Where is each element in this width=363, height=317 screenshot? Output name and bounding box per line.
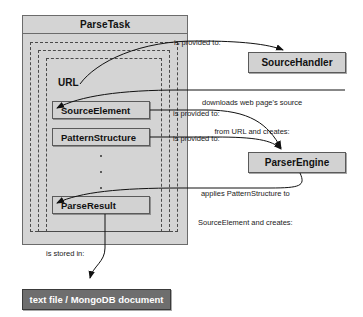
vertical-ellipsis-icon bbox=[99, 155, 103, 189]
edge-label-url-to-sourcehandler: is provided to: bbox=[174, 38, 221, 48]
node-source-handler-label: SourceHandler bbox=[261, 57, 332, 68]
parsetask-title: ParseTask bbox=[80, 19, 130, 30]
node-source-handler: SourceHandler bbox=[248, 52, 346, 73]
node-source-element: SourceElement bbox=[52, 101, 150, 119]
node-parser-engine-label: ParserEngine bbox=[265, 157, 329, 168]
edge-label-patternstructure-to-parserengine: is provided to: bbox=[173, 134, 220, 144]
parsetask-header: ParseTask bbox=[22, 15, 188, 34]
node-source-element-label: SourceElement bbox=[53, 105, 130, 116]
edge-label-parseresult-to-storage: is stored in: bbox=[46, 249, 84, 259]
node-storage: text file / MongoDB document bbox=[22, 289, 171, 310]
node-url: URL bbox=[58, 77, 79, 88]
node-storage-label: text file / MongoDB document bbox=[29, 294, 163, 305]
node-pattern-structure: PatternStructure bbox=[52, 128, 150, 146]
edge-label-parserengine-to-parseresult: applies PatternStructure to SourceElemen… bbox=[198, 170, 293, 246]
edge-label-sourceelement-to-parserengine: is provided to: bbox=[173, 109, 220, 119]
edge-label-downloads-line1: downloads web page's source bbox=[202, 98, 302, 108]
node-parse-result: ParseResult bbox=[52, 196, 150, 214]
node-pattern-structure-label: PatternStructure bbox=[53, 132, 136, 143]
diagram-canvas: ParseTask URL SourceElement PatternStruc… bbox=[0, 0, 363, 317]
node-parse-result-label: ParseResult bbox=[53, 200, 116, 211]
edge-label-applies-line1: applies PatternStructure to bbox=[198, 189, 293, 199]
edge-label-applies-line2: SourceElement and creates: bbox=[198, 218, 293, 228]
